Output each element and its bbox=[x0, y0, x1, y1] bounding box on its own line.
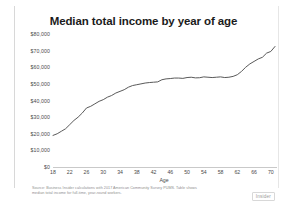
y-axis-tick-label: $60,000 bbox=[18, 64, 50, 70]
x-axis-tick-label: 18 bbox=[50, 169, 56, 175]
source-note-line: median total income for full-time, year-… bbox=[32, 191, 228, 196]
y-axis-tick-label: $10,000 bbox=[18, 147, 50, 153]
y-axis-tick-label: $40,000 bbox=[18, 98, 50, 104]
y-axis: $80,000$70,000$60,000$50,000$40,000$30,0… bbox=[18, 34, 50, 167]
y-axis-tick-label: $80,000 bbox=[18, 31, 50, 37]
x-axis-tick-label: 54 bbox=[201, 169, 207, 175]
x-axis-tick-label: 66 bbox=[251, 169, 257, 175]
y-axis-tick-label: $30,000 bbox=[18, 114, 50, 120]
source-note: Source: Business Insider calculations wi… bbox=[32, 186, 228, 196]
plot-area bbox=[53, 34, 275, 167]
chart-frame-right-border bbox=[278, 6, 279, 188]
y-axis-tick-label: $0 bbox=[18, 164, 50, 170]
x-axis-tick-label: 58 bbox=[218, 169, 224, 175]
brand-logo: Insider bbox=[252, 192, 275, 201]
x-axis-tick-label: 50 bbox=[184, 169, 190, 175]
chart-title: Median total income by year of age bbox=[0, 14, 287, 28]
x-axis-tick-label: 26 bbox=[84, 169, 90, 175]
y-axis-tick-label: $70,000 bbox=[18, 48, 50, 54]
x-axis-tick-label: 38 bbox=[134, 169, 140, 175]
x-axis-tick-label: 70 bbox=[268, 169, 274, 175]
income-series-line bbox=[53, 46, 275, 135]
chart-frame-left-border bbox=[14, 6, 15, 188]
x-axis-tick-label: 42 bbox=[151, 169, 157, 175]
x-axis-tick-label: 22 bbox=[67, 169, 73, 175]
x-axis-title: Age bbox=[53, 177, 275, 183]
y-axis-tick-label: $50,000 bbox=[18, 81, 50, 87]
y-axis-tick-label: $20,000 bbox=[18, 131, 50, 137]
x-axis-tick-label: 46 bbox=[167, 169, 173, 175]
line-chart-svg bbox=[53, 34, 275, 167]
x-axis-tick-label: 34 bbox=[117, 169, 123, 175]
x-axis-tick-label: 30 bbox=[100, 169, 106, 175]
x-axis-line bbox=[53, 167, 277, 168]
x-axis-tick-label: 62 bbox=[234, 169, 240, 175]
chart-card: Median total income by year of age $80,0… bbox=[0, 0, 287, 214]
